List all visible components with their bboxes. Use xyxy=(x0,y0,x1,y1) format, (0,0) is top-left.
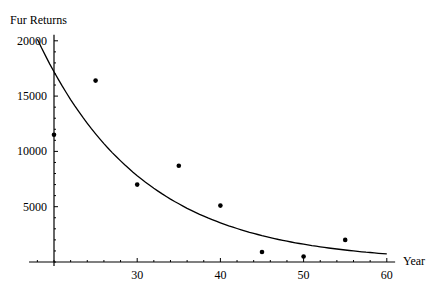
data-point xyxy=(301,254,306,259)
data-points xyxy=(52,78,348,258)
y-axis-label: Fur Returns xyxy=(10,13,67,27)
axes xyxy=(29,35,395,266)
x-tick-label: 40 xyxy=(214,268,226,282)
fit-curve xyxy=(37,39,386,254)
x-axis-label: Year xyxy=(403,254,425,268)
y-tick-label: 15000 xyxy=(17,89,47,103)
data-point xyxy=(135,182,140,187)
y-tick-label: 5000 xyxy=(23,200,47,214)
data-point xyxy=(93,78,98,83)
ticks xyxy=(37,41,386,262)
data-point xyxy=(343,238,348,243)
fur-returns-chart: 304050605000100001500020000 Fur Returns … xyxy=(0,0,440,290)
x-tick-label: 50 xyxy=(298,268,310,282)
data-point xyxy=(218,203,223,208)
x-tick-label: 30 xyxy=(131,268,143,282)
data-point xyxy=(177,163,182,168)
data-point xyxy=(260,250,265,255)
y-tick-label: 10000 xyxy=(17,144,47,158)
x-tick-label: 60 xyxy=(381,268,393,282)
data-point xyxy=(52,133,57,138)
tick-labels: 304050605000100001500020000 xyxy=(17,34,393,282)
y-tick-label: 20000 xyxy=(17,34,47,48)
